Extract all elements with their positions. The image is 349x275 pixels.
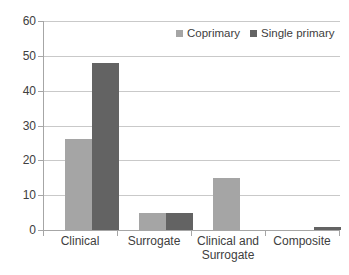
- legend-item-coprimary[interactable]: Coprimary: [176, 27, 240, 39]
- bar-single-primary-surrogate[interactable]: [166, 213, 193, 230]
- bar-single-primary-clinical[interactable]: [92, 63, 119, 230]
- y-tick-label-0: 0: [8, 224, 36, 236]
- legend: Coprimary Single primary: [176, 27, 335, 39]
- x-axis-separator-5: [339, 231, 340, 236]
- x-axis-label-clinical-line1: Clinical: [43, 234, 117, 248]
- y-tick-label-50: 50: [8, 50, 36, 62]
- y-tick-label-60: 60: [8, 15, 36, 27]
- x-axis-label-clinical: Clinical: [43, 234, 117, 248]
- bar-coprimary-surrogate[interactable]: [139, 213, 166, 230]
- y-tick-label-30: 30: [8, 120, 36, 132]
- x-axis-label-surrogate: Surrogate: [117, 234, 191, 248]
- bar-single-primary-composite[interactable]: [314, 227, 341, 231]
- x-axis-label-composite-line1: Composite: [265, 234, 339, 248]
- y-tick-label-20: 20: [8, 154, 36, 166]
- x-axis-label-clinical-and-surrogate: Clinical and Surrogate: [191, 234, 265, 262]
- y-tick-label-40: 40: [8, 85, 36, 97]
- legend-item-single-primary[interactable]: Single primary: [250, 27, 335, 39]
- bar-coprimary-clinical[interactable]: [65, 139, 92, 230]
- legend-swatch-single-primary-icon: [250, 30, 257, 37]
- x-axis-label-surrogate-line1: Surrogate: [117, 234, 191, 248]
- y-tick-label-10: 10: [8, 189, 36, 201]
- legend-label-coprimary: Coprimary: [187, 27, 240, 39]
- bar-chart: 60 50 40 30 20 10 0 Clinical Surrogate C…: [0, 0, 349, 275]
- bar-coprimary-clinical-and-surrogate[interactable]: [213, 178, 240, 230]
- legend-swatch-coprimary-icon: [176, 30, 183, 37]
- legend-label-single-primary: Single primary: [261, 27, 335, 39]
- bars-layer: [43, 21, 340, 230]
- x-axis-label-composite: Composite: [265, 234, 339, 248]
- x-axis-label-clinical-and-surrogate-line2: Surrogate: [191, 248, 265, 262]
- x-axis-label-clinical-and-surrogate-line1: Clinical and: [191, 234, 265, 248]
